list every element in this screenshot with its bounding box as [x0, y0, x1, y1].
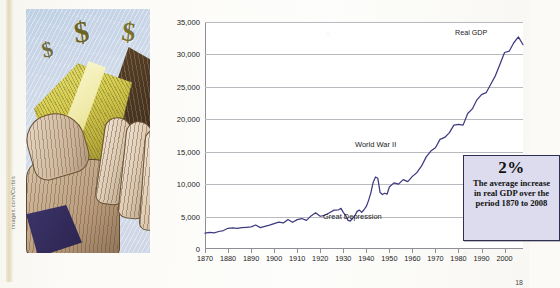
x-axis-tick	[482, 249, 483, 253]
y-axis-tick-label: 15,000	[177, 147, 200, 156]
x-axis-tick	[297, 249, 298, 253]
x-axis-tick-label: 1910	[289, 254, 305, 263]
y-axis-tick-label: 10,000	[177, 180, 200, 189]
annotation-great-depression: Great Depression	[323, 212, 382, 221]
x-axis-tick	[343, 249, 344, 253]
x-axis-tick-label: 1990	[473, 254, 489, 263]
y-axis-tick-label: 25,000	[177, 82, 200, 91]
x-axis-tick-label: 1960	[404, 254, 420, 263]
illustration-image: $ $ $	[26, 9, 150, 253]
x-axis-tick	[389, 249, 390, 253]
x-axis-tick-label: 2000	[496, 254, 512, 263]
x-axis-tick-label: 1940	[358, 254, 374, 263]
callout-percent: 2%	[464, 159, 559, 177]
x-axis-tick-label: 1980	[450, 254, 466, 263]
x-axis-tick	[320, 249, 321, 253]
x-axis-tick	[274, 249, 275, 253]
x-axis-tick-label: 1950	[381, 254, 397, 263]
x-axis-tick	[412, 249, 413, 253]
annotation-world-war-ii: World War II	[355, 140, 396, 149]
illustration-panel: $ $ $ images.com/Corbis	[6, 0, 150, 282]
x-axis-tick	[228, 249, 229, 253]
x-axis-tick	[366, 249, 367, 253]
x-axis-tick-label: 1920	[312, 254, 328, 263]
x-axis-tick	[505, 249, 506, 253]
dollar-sign-icon: $	[120, 18, 137, 46]
y-axis-tick-label: 0	[196, 245, 200, 254]
x-axis-tick	[251, 249, 252, 253]
y-axis-tick-label: 30,000	[177, 50, 200, 59]
callout-box: 2% The average increase in real GDP over…	[463, 155, 560, 241]
image-credit: images.com/Corbis	[10, 176, 16, 229]
page-number: 18	[515, 279, 523, 286]
y-axis-tick-label: 35,000	[177, 18, 200, 27]
x-axis-tick-label: 1880	[220, 254, 236, 263]
x-axis-tick	[458, 249, 459, 253]
series-label-real-gdp: Real GDP	[455, 28, 487, 37]
chart-figure: Real Per Capita GDP (1990 dollars) 05,00…	[150, 0, 529, 288]
x-axis-tick	[205, 249, 206, 253]
y-axis-tick-label: 20,000	[177, 115, 200, 124]
page-spine	[6, 0, 13, 282]
x-axis-tick-label: 1900	[266, 254, 282, 263]
x-axis-tick-label: 1930	[335, 254, 351, 263]
x-axis-tick-label: 1870	[197, 254, 213, 263]
callout-body-text: The average increase in real GDP over th…	[464, 177, 559, 208]
y-axis-tick-label: 5,000	[181, 212, 200, 221]
x-axis-tick	[435, 249, 436, 253]
x-axis-tick-label: 1970	[427, 254, 443, 263]
plot-area: 05,00010,00015,00020,00025,00030,00035,0…	[205, 22, 523, 249]
x-axis-tick-label: 1890	[243, 254, 259, 263]
